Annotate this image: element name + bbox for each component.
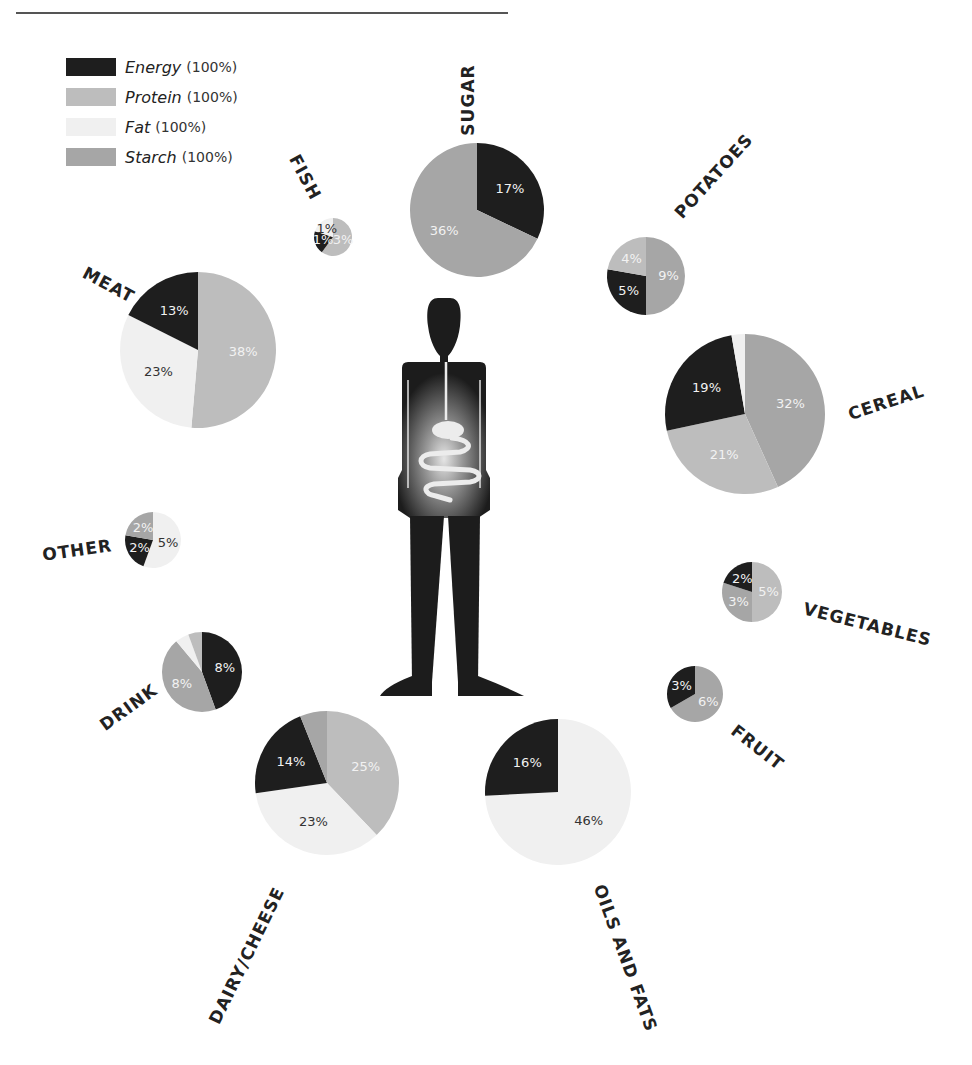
pie-other: 5%2%2% (125, 512, 181, 568)
slice-label: 25% (351, 759, 380, 774)
pie-cereal: 32%21%19% (665, 334, 825, 494)
pie-oils-and-fats: 46%16% (485, 719, 631, 865)
slice-label: 5% (618, 283, 639, 298)
slice-label: 9% (658, 268, 679, 283)
category-label-potatoes: POTATOES (670, 130, 756, 223)
pie-fruit: 6%3% (667, 666, 723, 722)
pie-potatoes: 9%5%4% (607, 237, 685, 315)
category-label-cereal: CEREAL (846, 381, 927, 424)
slice-label: 23% (299, 814, 328, 829)
category-label-vegetables: VEGETABLES (801, 599, 933, 650)
slice-label: 19% (692, 380, 721, 395)
human-body-icon (380, 298, 524, 696)
slice-label: 3% (671, 678, 692, 693)
slice-label: 46% (574, 813, 603, 828)
category-label-oils-and-fats: OILS AND FATS (590, 881, 662, 1034)
slice-label: 8% (215, 660, 236, 675)
slice-label: 13% (160, 303, 189, 318)
category-label-drink: DRINK (96, 680, 161, 735)
slice-label: 4% (621, 251, 642, 266)
slice-label: 8% (172, 676, 193, 691)
food-group-pie-chart: 17%36%9%5%4%32%21%19%5%3%2%6%3%46%16%25%… (0, 0, 972, 1065)
slice-label: 21% (710, 447, 739, 462)
slice-label: 16% (513, 755, 542, 770)
category-label-meat: MEAT (79, 263, 138, 307)
slice-label: 17% (495, 181, 524, 196)
slice-label: 5% (758, 584, 779, 599)
slice-label: 2% (133, 520, 154, 535)
slice-label: 14% (276, 754, 305, 769)
slice-label: 2% (129, 540, 150, 555)
category-label-dairy-cheese: DAIRY/CHEESE (205, 884, 289, 1028)
slice-label: 32% (776, 396, 805, 411)
pie-dairy-cheese: 25%23%14% (255, 711, 399, 855)
pie-vegetables: 5%3%2% (722, 562, 782, 622)
category-label-fruit: FRUIT (727, 720, 788, 774)
slice-label: 6% (698, 694, 719, 709)
pie-fish: 3%1%1% (313, 218, 354, 256)
slice-label: 3% (728, 594, 749, 609)
category-label-fish: FISH (285, 151, 325, 203)
pie-sugar: 17%36% (410, 143, 544, 277)
slice-label: 36% (430, 223, 459, 238)
slice-label: 23% (144, 364, 173, 379)
category-label-other: OTHER (41, 535, 113, 565)
pie-meat: 38%23%13% (120, 272, 276, 428)
slice-label: 38% (229, 344, 258, 359)
slice-label: 1% (317, 221, 338, 236)
pie-drink: 8%8% (162, 632, 242, 712)
slice-label: 2% (732, 571, 753, 586)
slice-label: 5% (158, 535, 179, 550)
category-label-sugar: SUGAR (458, 64, 478, 135)
